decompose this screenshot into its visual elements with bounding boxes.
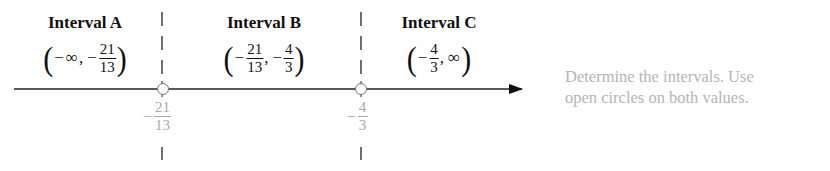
open-paren: ( — [224, 41, 234, 76]
numerator: 4 — [358, 100, 368, 117]
numerator: 21 — [99, 42, 116, 59]
numerator: 21 — [246, 42, 263, 59]
minus-sign: − — [54, 48, 64, 68]
boundary-label-2: − 4 3 — [346, 100, 369, 133]
open-circle-boundary-2[interactable] — [356, 84, 367, 95]
interval-a-title: Interval A — [48, 13, 122, 33]
interval-b-notation: ( − 21 13 , − 4 3 ) — [224, 40, 305, 76]
interval-a-notation: ( − ∞ , − 21 13 ) — [43, 40, 127, 76]
denominator: 13 — [155, 117, 170, 133]
comma: , — [79, 48, 83, 68]
numerator: 4 — [429, 42, 439, 59]
denominator: 3 — [430, 59, 438, 75]
fraction: 4 3 — [358, 100, 368, 133]
interval-c-notation: ( − 4 3 , ∞ ) — [407, 40, 471, 76]
fraction: 21 13 — [154, 100, 171, 133]
comma: , — [440, 48, 444, 68]
hint-line-2: open circles on both values. — [565, 87, 754, 108]
close-paren: ) — [117, 41, 127, 76]
denominator: 3 — [359, 117, 367, 133]
fraction: 21 13 — [246, 42, 263, 75]
numerator: 21 — [154, 100, 171, 117]
close-paren: ) — [294, 41, 304, 76]
minus-sign: − — [418, 48, 428, 68]
interval-b-title: Interval B — [227, 13, 301, 33]
denominator: 3 — [285, 59, 293, 75]
interval-c-title: Interval C — [401, 13, 476, 33]
infinity-symbol: ∞ — [66, 48, 78, 68]
boundary-label-1: − 21 13 — [142, 100, 172, 133]
infinity-symbol: ∞ — [448, 48, 460, 68]
minus-sign: − — [272, 48, 282, 68]
fraction: 21 13 — [99, 42, 116, 75]
instruction-hint: Determine the intervals. Use open circle… — [565, 66, 754, 108]
close-paren: ) — [461, 41, 471, 76]
minus-sign: − — [347, 108, 356, 126]
fraction: 4 3 — [429, 42, 439, 75]
denominator: 13 — [100, 59, 115, 75]
open-paren: ( — [407, 41, 417, 76]
hint-line-1: Determine the intervals. Use — [565, 66, 754, 87]
minus-sign: − — [143, 108, 152, 126]
open-paren: ( — [43, 41, 53, 76]
fraction: 4 3 — [284, 42, 294, 75]
comma: , — [264, 48, 268, 68]
numerator: 4 — [284, 42, 294, 59]
denominator: 13 — [247, 59, 262, 75]
minus-sign: − — [87, 48, 97, 68]
minus-sign: − — [235, 48, 245, 68]
open-circle-boundary-1[interactable] — [158, 84, 169, 95]
